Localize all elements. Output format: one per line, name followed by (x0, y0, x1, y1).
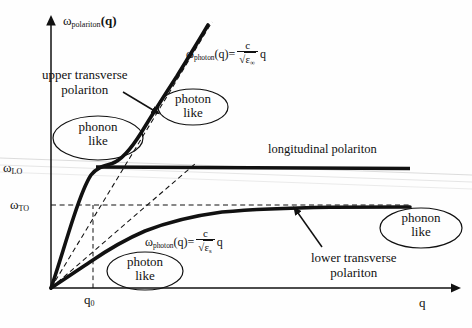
y-axis-subscript: polariton (72, 20, 101, 29)
formula-inf-omega: ω (186, 47, 194, 61)
longitudinal-polariton-curve (96, 167, 410, 169)
formula-inf-denominator: √ε∞ (237, 51, 258, 67)
omega-to-tick-label: ωTO (10, 198, 29, 213)
omega-lo-tick-label: ωLO (3, 161, 22, 176)
formula-s-epsilon-subscript: s (209, 247, 212, 254)
photon-formula-epsilon-static: ωphoton(q)=c√εsq (145, 228, 223, 255)
phonon-like-upper-line-1: phonon (58, 120, 138, 134)
formula-inf-arg: (q)= (215, 47, 236, 61)
phonon-like-lower-label: phonon like (383, 211, 459, 240)
formula-s-denominator: √εs (196, 239, 214, 255)
formula-s-sub: photon (153, 241, 174, 250)
formula-s-numerator: c (196, 228, 214, 239)
phonon-like-lower-line-1: phonon (383, 211, 459, 225)
phonon-like-upper-label: phonon like (58, 120, 138, 149)
x-axis-title: q (419, 296, 426, 309)
formula-s-radical: √εs (198, 240, 212, 255)
upper-branch-line-1: upper transverse (42, 68, 128, 83)
scan-artifact-lines (0, 158, 472, 189)
omega-lo-subscript: LO (12, 167, 23, 176)
formula-s-trailing-q: q (217, 235, 223, 249)
upper-transverse-polariton-label: upper transverse polariton (42, 68, 128, 97)
photon-like-lower-line-1: photon (110, 255, 180, 269)
formula-s-omega: ω (145, 235, 153, 249)
formula-inf-radicand: ε∞ (244, 52, 255, 67)
photon-like-upper-line-1: photon (160, 92, 226, 106)
longitudinal-polariton-label: longitudinal polariton (268, 143, 377, 156)
photon-like-lower-line-2: like (110, 269, 180, 283)
lower-branch-line-2: polariton (311, 266, 397, 281)
polariton-dispersion-figure: ωpolariton(q) q ωLO ωTO q0 upper transve… (0, 0, 472, 328)
formula-s-radicand: εs (203, 240, 212, 255)
upper-branch-line-2: polariton (42, 83, 128, 98)
photon-formula-epsilon-infinity: ωphoton(q)=c√ε∞q (186, 40, 266, 67)
formula-inf-radical: √ε∞ (239, 52, 256, 67)
q0-subscript: 0 (91, 299, 95, 308)
formula-s-fraction: c√εs (196, 228, 214, 255)
formula-inf-sub: photon (194, 53, 215, 62)
y-axis-argument: (q) (101, 13, 117, 28)
formula-inf-numerator: c (237, 40, 258, 51)
formula-inf-fraction: c√ε∞ (237, 40, 258, 67)
lower-branch-pointer-arrow (298, 213, 322, 247)
photon-like-lower-label: photon like (110, 255, 180, 284)
omega-to-subscript: TO (19, 204, 30, 213)
lower-transverse-polariton-label: lower transverse polariton (311, 251, 397, 280)
phonon-like-upper-line-2: like (58, 134, 138, 148)
formula-s-arg: (q)= (174, 235, 195, 249)
formula-inf-trailing-q: q (260, 47, 266, 61)
q0-tick-label: q0 (84, 293, 95, 308)
formula-inf-epsilon-subscript: ∞ (250, 59, 255, 66)
phonon-like-lower-line-2: like (383, 225, 459, 239)
lower-branch-line-1: lower transverse (311, 251, 397, 266)
photon-like-upper-label: photon like (160, 92, 226, 121)
omega-lo-symbol: ω (3, 160, 12, 175)
photon-like-upper-line-2: like (160, 106, 226, 120)
omega-to-symbol: ω (10, 197, 19, 212)
y-axis-title: ωpolariton(q) (63, 14, 117, 29)
y-axis-omega-symbol: ω (63, 13, 72, 28)
